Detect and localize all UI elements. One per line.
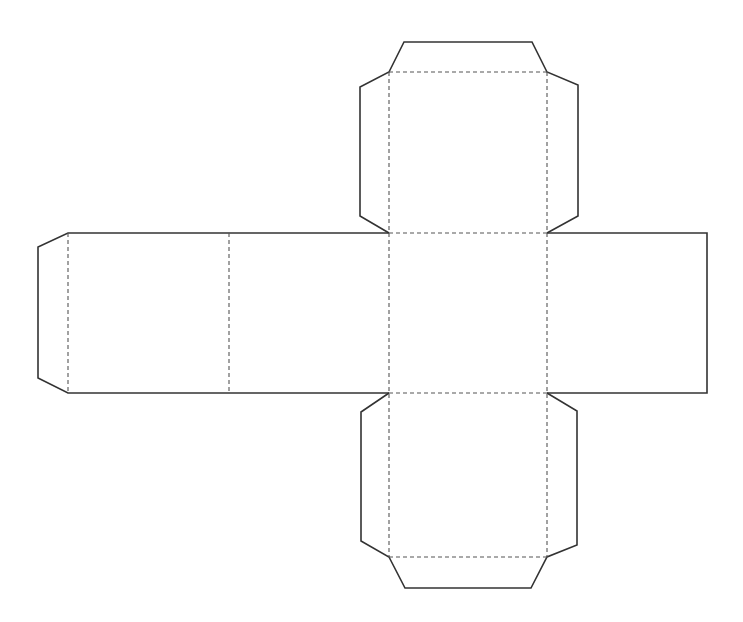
top-tab-outline [360, 42, 578, 233]
cube-net-diagram [0, 0, 743, 622]
fold-lines [68, 72, 547, 557]
bottom-tab-outline [361, 393, 577, 588]
right-face-outline [547, 233, 707, 393]
left-row-bottom-edge [38, 233, 389, 393]
cut-lines [38, 42, 707, 588]
